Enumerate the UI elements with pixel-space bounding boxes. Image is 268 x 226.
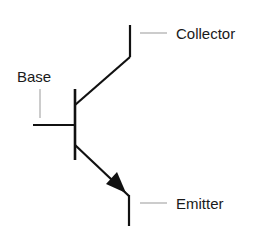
base-label: Base <box>17 68 51 85</box>
transistor-diagram: Collector Base Emitter <box>0 0 268 226</box>
collector-terminal: Collector <box>75 25 235 105</box>
emitter-label: Emitter <box>176 195 224 212</box>
collector-label: Collector <box>176 25 235 42</box>
emitter-arrow-icon <box>106 172 126 193</box>
collector-diagonal <box>75 57 130 105</box>
base-terminal: Base <box>17 68 75 160</box>
emitter-terminal: Emitter <box>75 145 224 226</box>
